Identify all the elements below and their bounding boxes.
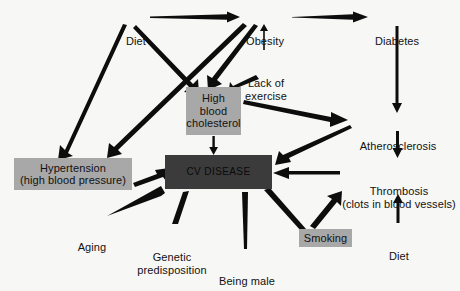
node-label: Diet xyxy=(385,250,413,263)
edge-hypertension-to-cv-disease xyxy=(133,168,169,187)
node-label: Thrombosis (clots in blood vessels) xyxy=(340,185,458,210)
node-thrombosis[interactable]: Thrombosis (clots in blood vessels) xyxy=(340,160,458,235)
edge-diet-to-obesity xyxy=(150,12,240,23)
node-label: Genetic predisposition xyxy=(132,251,212,276)
edge-cholesterol-to-cv-disease xyxy=(209,136,218,155)
node-diet-bottom[interactable]: Diet xyxy=(385,225,413,288)
edge-thrombosis-to-cv-disease xyxy=(273,167,340,179)
node-label: Lack of exercise xyxy=(240,77,292,102)
node-high-blood-cholesterol[interactable]: High blood cholesterol xyxy=(186,87,241,135)
node-diet-top[interactable]: Diet xyxy=(122,10,150,73)
node-label: Aging xyxy=(76,241,108,254)
node-hypertension[interactable]: Hypertension (high blood pressure) xyxy=(14,158,132,190)
node-label: Diabetes xyxy=(371,35,423,48)
node-label: Diet xyxy=(122,35,150,48)
node-cv-disease[interactable]: CV DISEASE xyxy=(165,155,272,189)
edge-smoking-to-thrombosis xyxy=(310,191,342,229)
edge-aging-to-cv-disease xyxy=(107,186,165,216)
edge-smoking-to-cv-disease xyxy=(264,188,306,231)
node-genetic-predisposition[interactable]: Genetic predisposition xyxy=(132,226,212,291)
node-lack-of-exercise[interactable]: Lack of exercise xyxy=(240,52,292,127)
node-label: CV DISEASE xyxy=(186,166,250,179)
node-diabetes[interactable]: Diabetes xyxy=(371,10,423,73)
edge-atherosclerosis-to-cv-disease xyxy=(275,125,352,165)
edge-diet-to-hypertension xyxy=(58,24,127,160)
node-label: Obesity xyxy=(243,35,287,48)
node-label: Smoking xyxy=(304,232,348,245)
node-label: Being male xyxy=(216,275,278,288)
node-aging[interactable]: Aging xyxy=(76,216,108,279)
edge-being-male-to-cv-disease xyxy=(242,192,248,249)
node-label: Atherosclerosis xyxy=(355,140,441,153)
edge-genetic-to-cv-disease xyxy=(172,191,189,224)
node-smoking[interactable]: Smoking xyxy=(299,229,352,247)
node-label: Hypertension (high blood pressure) xyxy=(20,162,126,187)
edge-obesity-to-diabetes xyxy=(292,12,368,23)
node-label: High blood cholesterol xyxy=(186,92,240,130)
node-being-male[interactable]: Being male xyxy=(216,250,278,291)
